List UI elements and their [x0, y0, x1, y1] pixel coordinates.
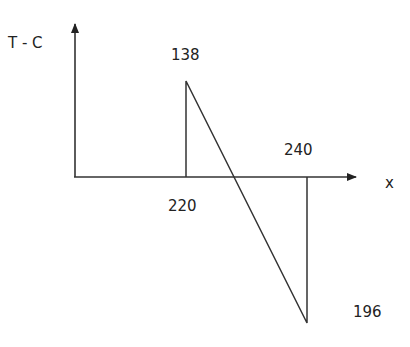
y-axis-label: T - C — [8, 36, 43, 51]
min-value-label: 196 — [353, 305, 382, 320]
shear-force-line — [186, 81, 307, 323]
start-position-label: 220 — [168, 199, 197, 214]
x-axis-label: x — [385, 176, 394, 191]
end-position-label: 240 — [284, 143, 313, 158]
diagram-canvas — [0, 0, 410, 347]
peak-value-label: 138 — [171, 48, 200, 63]
